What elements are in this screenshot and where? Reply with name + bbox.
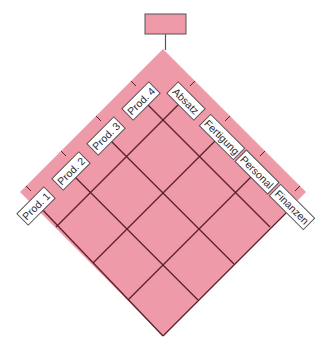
diagram-canvas: Prod. 1 Prod. 2 Prod. 3 Prod. 4 Absatz F… (0, 0, 328, 348)
matrix-organization-diagram: Prod. 1 Prod. 2 Prod. 3 Prod. 4 Absatz F… (0, 0, 328, 348)
top-box (145, 14, 186, 34)
